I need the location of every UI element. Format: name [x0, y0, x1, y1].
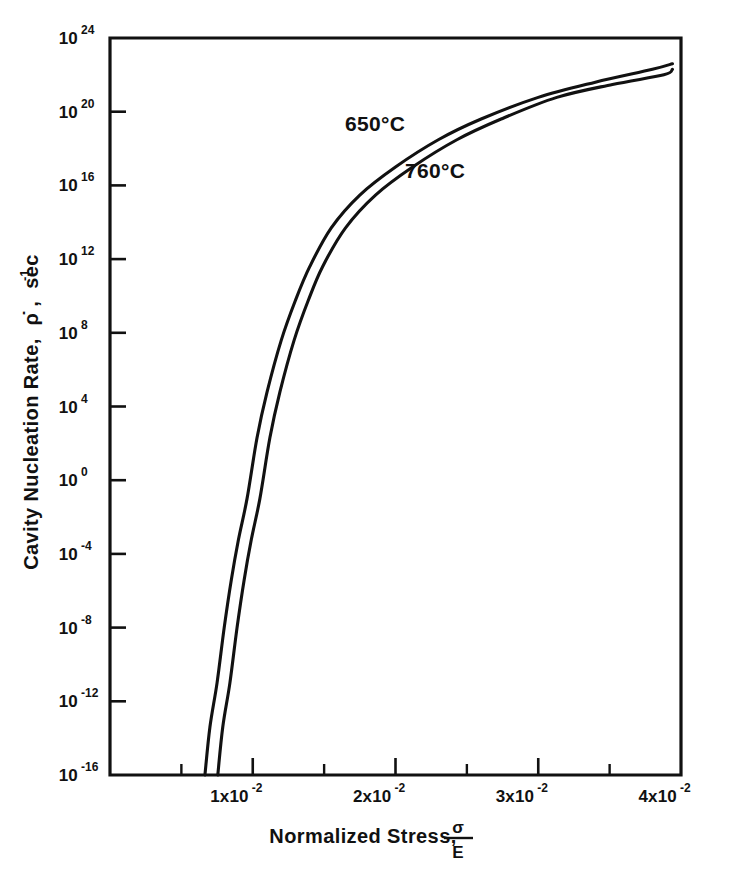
x-tick-mantissa: 3x10 — [496, 787, 535, 806]
x-axis-tick-label: 2x10-2 — [353, 781, 406, 806]
y-axis-title-comma: , — [20, 301, 42, 307]
y-tick-base: 10 — [59, 545, 78, 564]
x-axis-title-numerator: σ — [452, 818, 464, 837]
y-tick-exponent: 24 — [81, 23, 95, 37]
y-tick-exponent: -8 — [81, 613, 92, 627]
y-tick-exponent: -12 — [81, 686, 99, 700]
y-tick-base: 10 — [59, 324, 78, 343]
y-tick-base: 10 — [59, 692, 78, 711]
x-axis-tick-label: 4x10-2 — [638, 781, 691, 806]
y-tick-exponent: 8 — [81, 318, 88, 332]
x-tick-exponent: -2 — [680, 781, 691, 795]
y-tick-exponent: 20 — [81, 97, 95, 111]
plot-frame — [110, 38, 681, 775]
y-axis-title: Cavity Nucleation Rate, ρ̇ , sec -1 — [17, 254, 42, 570]
y-tick-exponent: -4 — [81, 539, 92, 553]
y-axis-title-main: Cavity Nucleation Rate, — [20, 338, 42, 570]
series-annotation-760C: 760°C — [405, 159, 465, 182]
y-tick-exponent: 16 — [81, 170, 95, 184]
y-tick-base: 10 — [59, 250, 78, 269]
y-tick-base: 10 — [59, 766, 78, 785]
x-tick-mantissa: 1x10 — [210, 787, 249, 806]
y-tick-exponent: 0 — [81, 465, 88, 479]
y-axis-ticks-group: 102410201016101210810410010-410-810-1210… — [59, 23, 126, 785]
y-axis-title-symbol: ρ̇ — [20, 311, 42, 325]
y-tick-base: 10 — [59, 398, 78, 417]
y-axis-tick-label: 1016 — [59, 170, 95, 195]
y-axis-title-unit-exponent: -1 — [17, 269, 32, 281]
y-tick-exponent: 12 — [81, 244, 95, 258]
y-axis-tick-label: 1012 — [59, 244, 95, 269]
y-tick-base: 10 — [59, 176, 78, 195]
x-axis-title-denominator: E — [452, 843, 463, 862]
svg-text:Cavity Nucleation Rate,: Cavity Nucleation Rate, ρ̇ , sec — [20, 254, 42, 570]
x-tick-exponent: -2 — [537, 781, 548, 795]
x-tick-mantissa: 4x10 — [638, 787, 677, 806]
x-axis-tick-label: 1x10-2 — [210, 781, 263, 806]
x-axis-title: Normalized Stress, σ E — [269, 818, 473, 862]
x-axis-tick-label: 3x10-2 — [496, 781, 549, 806]
y-tick-exponent: -16 — [81, 760, 99, 774]
x-tick-mantissa: 2x10 — [353, 787, 392, 806]
chart-figure: 102410201016101210810410010-410-810-1210… — [0, 0, 738, 878]
chart-canvas: 102410201016101210810410010-410-810-1210… — [0, 0, 738, 878]
y-tick-base: 10 — [59, 103, 78, 122]
y-tick-base: 10 — [59, 29, 78, 48]
y-tick-exponent: 4 — [81, 392, 88, 406]
x-tick-exponent: -2 — [395, 781, 406, 795]
y-axis-tick-label: 100 — [59, 465, 88, 490]
y-axis-tick-label: 1020 — [59, 97, 95, 122]
y-tick-base: 10 — [59, 471, 78, 490]
y-axis-tick-label: 10-12 — [59, 686, 99, 711]
y-axis-tick-label: 10-16 — [59, 760, 99, 785]
x-axis-title-main: Normalized Stress, — [269, 825, 456, 847]
y-axis-tick-label: 108 — [59, 318, 88, 343]
y-axis-tick-label: 10-4 — [59, 539, 92, 564]
y-axis-tick-label: 104 — [59, 392, 88, 417]
x-tick-exponent: -2 — [252, 781, 263, 795]
x-axis-ticks-group: 1x10-22x10-23x10-24x10-2 — [181, 758, 691, 806]
y-axis-tick-label: 1024 — [59, 23, 95, 48]
y-tick-base: 10 — [59, 619, 78, 638]
series-annotation-650C: 650°C — [345, 112, 405, 135]
axis-frame-rectangle — [110, 38, 681, 775]
y-axis-tick-label: 10-8 — [59, 613, 92, 638]
